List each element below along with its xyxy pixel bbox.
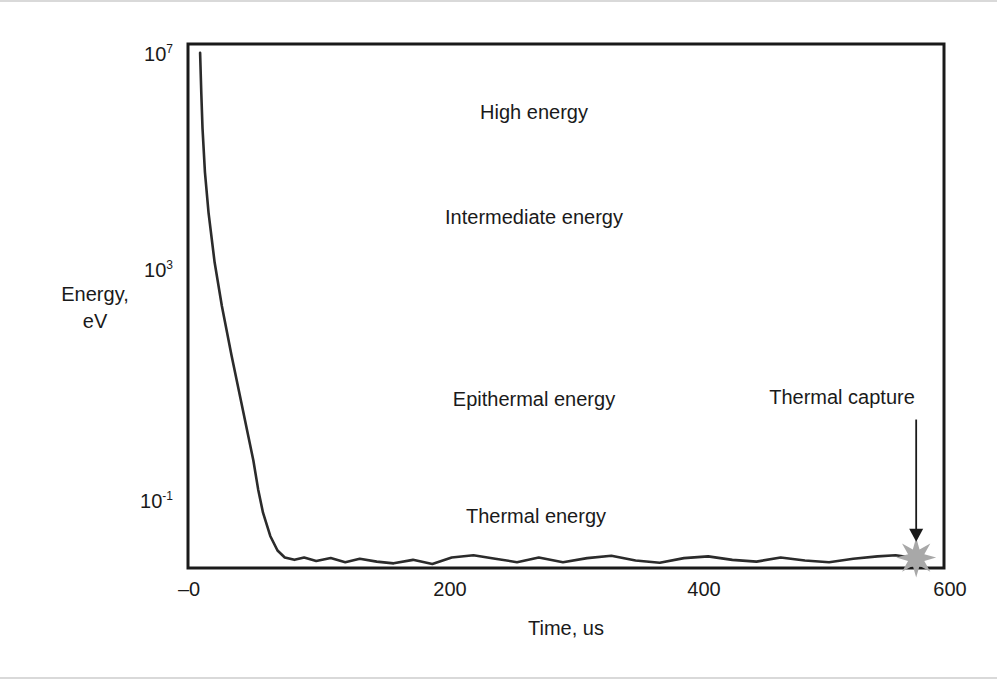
energy-decay-line <box>200 53 911 564</box>
x-tick-label-600: 600 <box>905 578 995 601</box>
annotation-thermal-energy: Thermal energy <box>442 505 630 528</box>
annotation-thermal-capture: Thermal capture <box>758 386 926 409</box>
marker-layer <box>896 538 936 578</box>
figure-canvas: Energy, eV Time, us 107 103 10-1 –0 200 … <box>0 0 997 679</box>
annotation-intermediate-energy: Intermediate energy <box>406 206 662 229</box>
y-tick-label-1e7: 107 <box>103 43 173 66</box>
y-tick-base: 10 <box>144 43 166 65</box>
annotation-epithermal-energy: Epithermal energy <box>419 388 649 411</box>
y-axis-title: Energy, eV <box>36 281 154 335</box>
y-tick-base: 10 <box>144 259 166 281</box>
y-tick-base: 10 <box>140 490 162 512</box>
x-tick-label-400: 400 <box>659 578 749 601</box>
y-tick-label-1e3: 103 <box>103 259 173 282</box>
y-axis-title-line1: Energy, <box>36 281 154 308</box>
y-tick-label-1e-1: 10-1 <box>103 490 173 513</box>
x-axis-title: Time, us <box>426 617 706 640</box>
annotation-high-energy: High energy <box>434 101 634 124</box>
y-tick-exponent: 3 <box>166 258 173 272</box>
thermal-capture-burst-icon <box>896 538 936 578</box>
y-tick-exponent: 7 <box>166 42 173 56</box>
x-tick-label-0: –0 <box>144 578 234 601</box>
x-tick-label-200: 200 <box>405 578 495 601</box>
arrow-layer <box>909 420 923 542</box>
y-tick-exponent: -1 <box>162 489 173 503</box>
y-axis-title-line2: eV <box>36 308 154 335</box>
thermal-capture-arrow-head-icon <box>909 529 923 542</box>
